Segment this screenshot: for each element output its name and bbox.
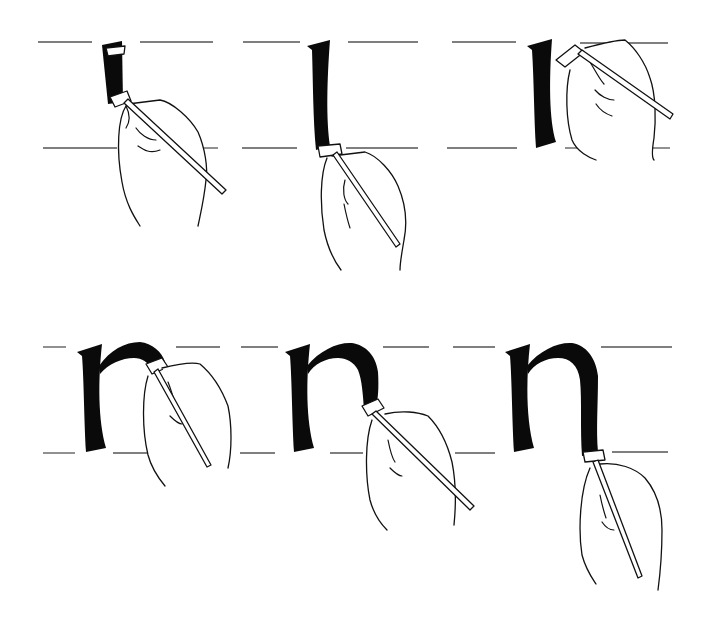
hand-icon — [321, 152, 405, 270]
pen-nib-icon — [106, 46, 125, 56]
panel-step-1 — [102, 41, 226, 226]
ink-stroke — [307, 40, 330, 150]
ink-stroke — [307, 343, 378, 410]
panel-step-6 — [505, 343, 662, 590]
panel-step-2 — [307, 40, 406, 270]
ink-stroke — [527, 39, 556, 148]
panel-step-5 — [285, 343, 474, 530]
hand-icon — [366, 412, 455, 530]
pen-nib-icon — [583, 450, 605, 462]
ink-stroke — [285, 344, 314, 452]
calligraphy-illustration — [0, 0, 707, 617]
panel-step-3 — [527, 39, 673, 160]
panel-step-4 — [77, 342, 231, 486]
ink-stroke — [505, 344, 534, 452]
ink-stroke — [77, 344, 106, 452]
ink-stroke — [527, 343, 598, 456]
